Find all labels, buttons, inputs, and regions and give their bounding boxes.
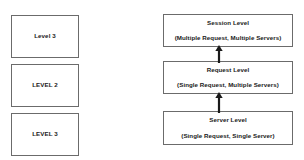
left-level-box-2-label: LEVEL 2 <box>32 82 58 88</box>
server-level-box: Server Level (Single Request, Single Ser… <box>163 111 293 145</box>
left-level-box-1: Level 3 <box>11 15 79 58</box>
session-level-title: Session Level <box>207 20 249 26</box>
server-level-subtitle: (Single Request, Single Server) <box>181 133 274 139</box>
session-level-subtitle: (Multiple Request, Multiple Servers) <box>175 35 282 41</box>
arrow-server-to-request-icon <box>213 92 225 113</box>
request-level-box: Request Level (Single Request, Multiple … <box>163 61 293 94</box>
session-level-box: Session Level (Multiple Request, Multipl… <box>163 14 293 47</box>
left-level-box-3: LEVEL 3 <box>11 113 79 156</box>
request-level-subtitle: (Single Request, Multiple Servers) <box>177 82 279 88</box>
left-level-box-3-label: LEVEL 3 <box>32 131 58 137</box>
diagram-canvas: Level 3 LEVEL 2 LEVEL 3 Session Level (M… <box>0 0 304 160</box>
request-level-title: Request Level <box>207 67 250 73</box>
left-level-box-1-label: Level 3 <box>34 33 56 39</box>
left-level-box-2: LEVEL 2 <box>11 64 79 107</box>
server-level-title: Server Level <box>209 117 246 123</box>
arrow-request-to-session-icon <box>213 45 225 63</box>
